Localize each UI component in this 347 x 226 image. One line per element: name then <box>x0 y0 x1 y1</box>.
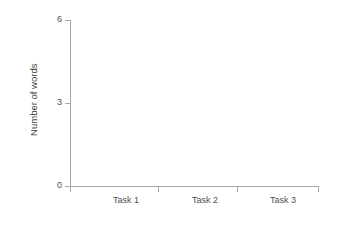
y-axis-tick-label-3: 3 <box>42 98 62 107</box>
y-axis-tick-label-0: 0 <box>42 181 62 190</box>
x-axis-category-task-1: Task 1 <box>97 196 155 205</box>
x-axis-category-task-2: Task 2 <box>176 196 234 205</box>
y-axis-tick-label-6: 6 <box>42 15 62 24</box>
x-axis-tick-end <box>318 186 319 192</box>
x-axis-line <box>70 186 319 187</box>
plot-area <box>71 20 319 186</box>
x-axis-tick-2 <box>237 186 238 192</box>
x-axis-tick-start <box>70 186 71 192</box>
y-axis-title: Number of words <box>29 35 39 165</box>
x-axis-tick-1 <box>158 186 159 192</box>
chart-figure: 0 3 6 Task 1 Task 2 Task 3 Number of wor… <box>0 0 347 226</box>
y-axis-tick-6 <box>65 20 71 21</box>
y-axis-tick-3 <box>65 103 71 104</box>
x-axis-category-task-3: Task 3 <box>254 196 312 205</box>
